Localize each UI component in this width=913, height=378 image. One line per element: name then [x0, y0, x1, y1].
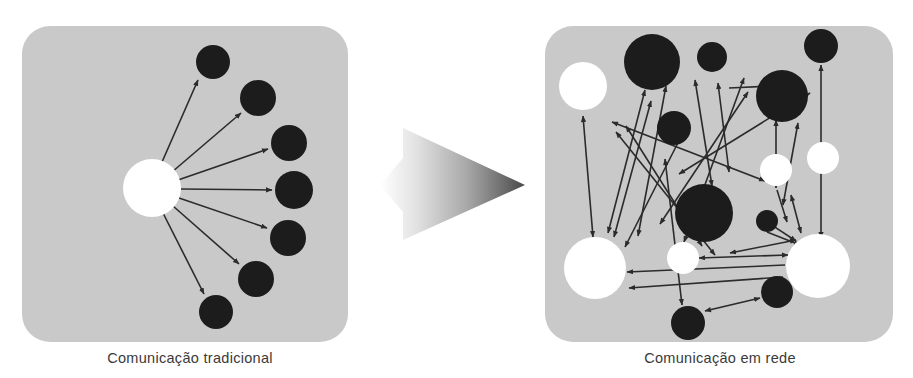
receiver-node-2: [240, 80, 276, 116]
network-node-12: [667, 242, 699, 274]
network-node-4: [804, 29, 838, 63]
network-node-15: [671, 306, 705, 340]
receiver-node-7: [199, 295, 233, 329]
receiver-node-6: [238, 261, 274, 297]
receiver-node-4: [275, 171, 313, 209]
traditional-panel-group: [22, 26, 348, 342]
network-panel-caption: Comunicação em rede: [530, 350, 910, 366]
network-node-8: [760, 154, 792, 186]
network-node-2: [624, 34, 680, 90]
network-node-9: [675, 184, 733, 242]
hub-node: [123, 159, 181, 217]
receiver-node-5: [270, 220, 306, 256]
communication-models-diagram: [0, 0, 913, 378]
network-panel-group: [545, 26, 893, 342]
gradient-transition-arrow: [380, 128, 525, 240]
network-node-13: [786, 234, 850, 298]
network-node-3: [697, 42, 727, 72]
receiver-node-1: [196, 45, 230, 79]
network-node-7: [807, 142, 839, 174]
network-node-14: [761, 276, 793, 308]
network-node-1: [559, 62, 607, 110]
edge-hub-to-receiver-4: [181, 189, 272, 190]
receiver-node-3: [271, 125, 307, 161]
network-node-10: [756, 210, 778, 232]
traditional-panel-caption: Comunicação tradicional: [0, 350, 380, 366]
network-node-6: [657, 111, 691, 145]
network-node-11: [564, 237, 626, 299]
network-node-5: [756, 70, 808, 122]
